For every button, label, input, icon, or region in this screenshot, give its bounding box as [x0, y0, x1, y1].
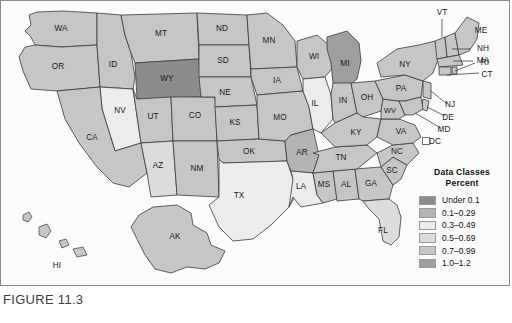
legend-row[interactable]: 0.5–0.69	[419, 232, 507, 245]
state-label-NY: NY	[399, 60, 411, 69]
state-HI-3[interactable]	[59, 239, 69, 248]
state-label-AZ: AZ	[153, 161, 164, 170]
state-label-UT: UT	[147, 112, 158, 121]
state-label-ID: ID	[109, 60, 117, 69]
legend-rows: Under 0.1 0.1–0.29 0.3–0.49 0.5–0.69 0.7…	[419, 194, 507, 270]
state-label-SC: SC	[386, 166, 398, 175]
legend-row[interactable]: 0.7–0.99	[419, 244, 507, 257]
state-label-VT: VT	[437, 8, 448, 17]
state-label-AK: AK	[169, 232, 181, 241]
map-legend: Data Classes Percent Under 0.1 0.1–0.29 …	[419, 167, 507, 270]
legend-title: Data Classes Percent	[419, 167, 505, 189]
state-label-MD: MD	[438, 125, 451, 134]
legend-swatch-icon	[419, 233, 436, 243]
state-label-VA: VA	[396, 127, 407, 136]
state-label-NM: NM	[191, 164, 204, 173]
state-label-MO: MO	[273, 113, 286, 122]
state-label-IL: IL	[311, 99, 318, 108]
legend-swatch-icon	[419, 221, 436, 231]
state-HI-1[interactable]	[23, 212, 32, 222]
legend-label: 0.5–0.69	[442, 233, 475, 243]
legend-label: 0.3–0.49	[442, 220, 475, 230]
state-label-SD: SD	[217, 56, 229, 65]
state-label-DC: DC	[429, 137, 441, 146]
legend-label: Under 0.1	[442, 195, 480, 205]
state-label-AR: AR	[296, 148, 308, 157]
legend-row[interactable]: 1.0–1.2	[419, 257, 507, 270]
state-label-MN: MN	[263, 36, 276, 45]
state-label-HI: HI	[53, 261, 61, 270]
state-label-OH: OH	[361, 93, 373, 102]
dc-legend-swatch	[422, 137, 430, 145]
state-FL[interactable]	[363, 199, 401, 245]
legend-row[interactable]: 0.1–0.29	[419, 207, 507, 220]
state-label-WI: WI	[309, 52, 319, 61]
state-label-LA: LA	[296, 182, 307, 191]
legend-label: 0.1–0.29	[442, 208, 475, 218]
state-label-FL: FL	[378, 226, 388, 235]
figure-caption: FIGURE 11.3	[3, 292, 83, 307]
state-label-WY: WY	[160, 74, 174, 83]
state-label-ND: ND	[216, 24, 228, 33]
state-label-NC: NC	[391, 147, 403, 156]
state-label-TN: TN	[335, 153, 346, 162]
state-label-KY: KY	[350, 128, 362, 137]
state-TX[interactable]	[209, 159, 297, 241]
state-label-DE: DE	[442, 113, 454, 122]
figure-page: WA OR ID MT WY NV UT CA AZ CO NM ND SD N…	[0, 0, 512, 323]
state-label-MS: MS	[318, 180, 331, 189]
legend-row[interactable]: Under 0.1	[419, 194, 507, 207]
state-label-PA: PA	[396, 84, 407, 93]
state-label-IA: IA	[273, 76, 281, 85]
state-label-RI: RI	[481, 58, 489, 67]
state-HI-4[interactable]	[73, 247, 87, 257]
legend-row[interactable]: 0.3–0.49	[419, 219, 507, 232]
legend-swatch-icon	[419, 196, 436, 206]
map-frame: WA OR ID MT WY NV UT CA AZ CO NM ND SD N…	[0, 0, 510, 286]
state-label-KS: KS	[229, 118, 241, 127]
state-label-WV: WV	[384, 106, 396, 115]
state-label-CA: CA	[86, 133, 98, 142]
state-CT[interactable]	[439, 67, 451, 75]
state-NJ[interactable]	[423, 81, 431, 99]
legend-swatch-icon	[419, 259, 436, 269]
state-label-WA: WA	[54, 24, 68, 33]
state-label-NH: NH	[477, 44, 489, 53]
state-label-TX: TX	[234, 191, 245, 200]
state-label-NV: NV	[114, 106, 126, 115]
state-label-IN: IN	[339, 96, 347, 105]
state-label-AL: AL	[341, 180, 352, 189]
state-label-OR: OR	[52, 62, 64, 71]
state-label-NE: NE	[219, 88, 231, 97]
state-label-MT: MT	[155, 29, 167, 38]
legend-label: 1.0–1.2	[442, 258, 471, 268]
legend-title-line2: Percent	[419, 178, 505, 189]
legend-label: 0.7–0.99	[442, 246, 475, 256]
legend-swatch-icon	[419, 246, 436, 256]
legend-swatch-icon	[419, 208, 436, 218]
state-label-NJ: NJ	[445, 100, 455, 109]
state-label-GA: GA	[365, 179, 377, 188]
state-HI-2[interactable]	[39, 224, 51, 238]
state-label-ME: ME	[475, 26, 488, 35]
legend-title-line1: Data Classes	[419, 167, 505, 178]
state-label-OK: OK	[243, 147, 255, 156]
state-label-MI: MI	[340, 59, 349, 68]
state-label-CO: CO	[189, 111, 201, 120]
state-label-CT: CT	[481, 70, 492, 79]
